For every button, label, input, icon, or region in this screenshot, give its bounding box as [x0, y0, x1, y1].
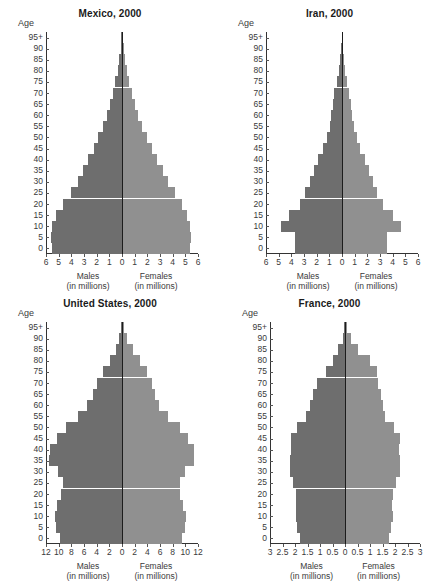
age-tick-label: 70 — [34, 379, 43, 388]
age-tick-label: 55 — [258, 412, 267, 421]
male-bar — [331, 110, 342, 121]
female-bar — [345, 477, 396, 488]
x-tick-label: 4 — [94, 548, 99, 557]
males-axis-caption: Males(in millions) — [67, 271, 110, 291]
female-bar — [342, 165, 369, 176]
age-tick-label: 60 — [258, 401, 267, 410]
x-tick-label: 4 — [69, 258, 74, 267]
age-tick-mark — [46, 149, 49, 150]
female-bar — [122, 411, 168, 422]
panel-france: France, 2000 Age 05101520253035404550556… — [220, 290, 439, 580]
age-tick-label: 20 — [34, 490, 43, 499]
male-bar — [333, 99, 343, 110]
age-tick-mark — [46, 226, 49, 227]
age-tick-label: 25 — [258, 478, 267, 487]
plot-area: 05101520253035404550556065707580859095+3… — [270, 322, 420, 544]
female-bar — [342, 232, 387, 243]
age-tick-mark — [266, 226, 269, 227]
age-tick-label: 15 — [258, 501, 267, 510]
female-bar — [345, 411, 385, 422]
female-bar — [122, 99, 135, 110]
female-bar — [345, 500, 392, 511]
age-tick-mark — [46, 538, 49, 539]
age-tick-mark — [46, 38, 49, 39]
age-tick-mark — [46, 115, 49, 116]
age-tick-label: 35 — [258, 456, 267, 465]
age-tick-mark — [46, 193, 49, 194]
female-bar — [122, 455, 194, 466]
male-bar — [110, 99, 122, 110]
x-tick-label: 6 — [158, 548, 163, 557]
age-tick-label: 10 — [258, 512, 267, 521]
age-tick-mark — [46, 71, 49, 72]
age-tick-label: 45 — [254, 144, 263, 153]
age-tick-label: 20 — [254, 200, 263, 209]
x-tick-label: 6 — [196, 258, 201, 267]
male-bar — [50, 444, 122, 455]
age-tick-label: 25 — [254, 188, 263, 197]
age-tick-label: 5 — [38, 523, 43, 532]
male-bar — [297, 522, 345, 533]
age-tick-label: 35 — [254, 166, 263, 175]
age-tick-label: 85 — [254, 55, 263, 64]
male-bar — [296, 500, 345, 511]
male-bar — [293, 477, 346, 488]
age-tick-label: 70 — [34, 89, 43, 98]
female-bar — [122, 243, 190, 254]
age-tick-label: 55 — [34, 122, 43, 131]
male-bar — [57, 500, 122, 511]
age-tick-label: 55 — [254, 122, 263, 131]
male-bar — [334, 88, 342, 99]
female-bar — [122, 110, 138, 121]
age-tick-label: 80 — [254, 66, 263, 75]
female-bar — [342, 88, 349, 99]
age-tick-label: 15 — [254, 211, 263, 220]
male-bar — [115, 76, 122, 87]
female-bar — [122, 232, 191, 243]
female-bar — [345, 389, 381, 400]
age-tick-mark — [270, 427, 273, 428]
age-tick-mark — [266, 149, 269, 150]
age-tick-label: 95+ — [29, 33, 43, 42]
male-bar — [107, 110, 122, 121]
age-tick-mark — [266, 182, 269, 183]
male-bar — [97, 378, 122, 389]
age-tick-label: 0 — [262, 534, 267, 543]
female-bar — [122, 199, 182, 210]
female-bar — [345, 378, 378, 389]
female-bar — [345, 522, 391, 533]
age-tick-label: 45 — [34, 144, 43, 153]
female-bar — [342, 243, 387, 254]
age-tick-mark — [266, 115, 269, 116]
male-bar — [310, 400, 346, 411]
age-tick-mark — [46, 505, 49, 506]
x-tick-label: 3 — [158, 258, 163, 267]
female-bar — [345, 444, 399, 455]
x-tick-label: 6 — [264, 258, 269, 267]
age-tick-mark — [46, 472, 49, 473]
females-caption-line1: Females — [135, 561, 178, 571]
age-tick-label: 70 — [254, 89, 263, 98]
female-bar — [342, 154, 365, 165]
age-tick-label: 85 — [34, 55, 43, 64]
male-bar — [60, 533, 122, 544]
age-tick-label: 65 — [258, 390, 267, 399]
x-tick-label: 6 — [82, 548, 87, 557]
male-bar — [290, 466, 345, 477]
female-bar — [345, 466, 400, 477]
females-caption-line1: Females — [357, 561, 400, 571]
male-bar — [300, 533, 346, 544]
age-tick-mark — [46, 237, 49, 238]
females-caption-line2: (in millions) — [357, 571, 400, 581]
female-bar — [122, 187, 175, 198]
age-tick-mark — [46, 137, 49, 138]
male-bar — [78, 411, 122, 422]
female-bar — [122, 88, 132, 99]
male-bar — [323, 143, 342, 154]
age-tick-mark — [266, 160, 269, 161]
x-tick-label: 2 — [94, 258, 99, 267]
age-tick-label: 35 — [34, 166, 43, 175]
age-tick-mark — [270, 350, 273, 351]
age-tick-mark — [266, 49, 269, 50]
x-tick-label: 1 — [107, 258, 112, 267]
